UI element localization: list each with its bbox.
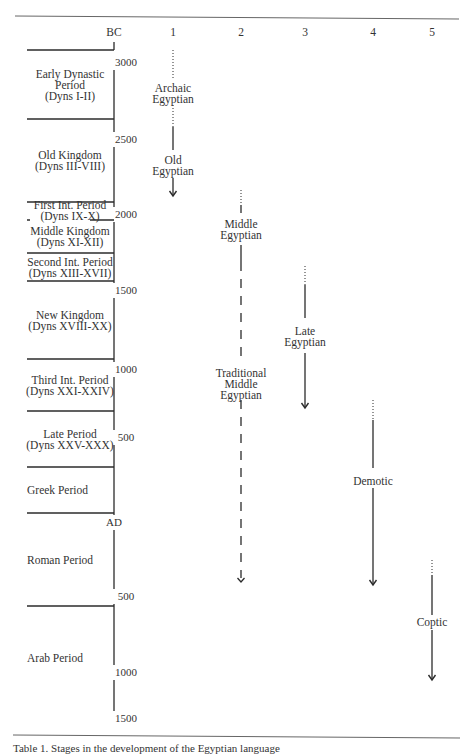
stage-traditional-middle-egyptian: TraditionalMiddleEgyptian [216, 367, 267, 582]
stage-label: Demotic [353, 475, 393, 487]
stage-label: Egyptian [284, 336, 326, 349]
stage-middle-egyptian: MiddleEgyptian [220, 190, 262, 360]
axis-tick-label: 1000 [115, 666, 138, 678]
arrow-down-icon [238, 578, 245, 582]
axis-tick-label: 2500 [115, 133, 138, 145]
column-header-3: 3 [302, 26, 308, 38]
period-label: (Dyns I-II) [45, 90, 95, 103]
axis-tick-label: AD [106, 516, 122, 528]
axis-tick-label: 500 [118, 431, 135, 443]
period-label: Roman Period [27, 554, 93, 566]
period-label: (Dyns XVIII-XX) [28, 320, 112, 333]
period-label: (Dyns XIII-XVII) [29, 267, 112, 280]
column-headers: 12345 [170, 26, 435, 38]
stage-archaic-egyptian: ArchaicEgyptian [152, 50, 194, 106]
period-label: Greek Period [27, 484, 88, 496]
stage-demotic: Demotic [353, 400, 393, 585]
axis-tick-label: 2000 [115, 208, 138, 220]
period-label: (Dyns XXI-XXIV) [26, 385, 114, 398]
period-label: (Dyns XXV-XXX) [26, 439, 114, 452]
period-label: (Dyns III-VIII) [35, 160, 105, 173]
stage-late-egyptian: LateEgyptian [284, 266, 326, 408]
period-label: (Dyns IX-X) [40, 210, 99, 223]
language-stages: ArchaicEgyptianOldEgyptianMiddleEgyptian… [152, 50, 447, 680]
column-header-2: 2 [238, 26, 244, 38]
period-label: Arab Period [27, 652, 83, 664]
bottom-rule [13, 735, 460, 738]
stage-coptic: Coptic [417, 560, 448, 680]
stage-label: Coptic [417, 616, 448, 629]
axis-tick-label: 3000 [115, 56, 138, 68]
column-header-4: 4 [370, 26, 376, 38]
stage-label: Egyptian [220, 389, 262, 402]
stage-label: Egyptian [152, 165, 194, 178]
axis-tick-label: 500 [118, 590, 135, 602]
axis-tick-label: 1000 [115, 363, 138, 375]
stage-label: Egyptian [220, 229, 262, 242]
stage-label: Egyptian [152, 93, 194, 106]
table-caption: Table 1. Stages in the development of th… [13, 742, 280, 754]
top-rule [15, 16, 459, 19]
stage-old-egyptian: OldEgyptian [152, 105, 194, 196]
axis-tick-label: 1500 [115, 284, 138, 296]
axis-header-bc: BC [106, 26, 122, 38]
axis-tick-label: 1500 [115, 712, 138, 724]
period-label: (Dyns XI-XII) [37, 236, 104, 249]
period-list: Early DynasticPeriod(Dyns I-II)Old Kingd… [26, 50, 114, 664]
column-header-5: 5 [429, 26, 435, 38]
column-header-1: 1 [170, 26, 176, 38]
time-axis: BC30002500200015001000500AD50010001500 [106, 26, 137, 724]
